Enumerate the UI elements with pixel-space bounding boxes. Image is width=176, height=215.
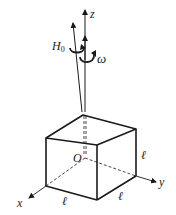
hidden-axes: [46, 116, 136, 186]
x-label: x: [16, 196, 23, 210]
x-axis: [29, 186, 46, 198]
omega-rotation-icon: [80, 55, 94, 62]
y-axis: [136, 176, 156, 182]
h0-vector: [73, 23, 82, 112]
side-length-label-vertical: ℓ: [141, 148, 146, 162]
y-label: y: [158, 175, 165, 189]
cube-rotation-diagram: z H0 ω O x y ℓ ℓ ℓ: [0, 0, 176, 215]
rotation-arrows: [70, 48, 94, 62]
h0-label: H0: [51, 39, 65, 54]
side-length-label-front: ℓ: [62, 194, 67, 208]
omega-label: ω: [97, 51, 106, 66]
side-length-label-right: ℓ: [118, 189, 123, 203]
z-label: z: [89, 7, 95, 21]
cube: [46, 115, 136, 200]
origin-label: O: [73, 151, 82, 165]
